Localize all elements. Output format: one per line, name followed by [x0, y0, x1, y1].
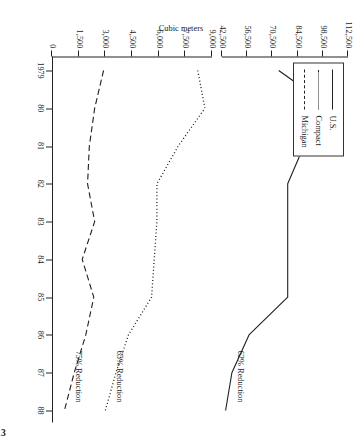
year-tick: [46, 146, 52, 147]
year-tick-label: 82: [36, 179, 45, 187]
annotation-us-reduction: 62% Reduction: [236, 350, 245, 402]
year-tick: [46, 259, 52, 260]
value-tick-lower: [184, 50, 185, 56]
year-axis-line: [52, 56, 53, 422]
value-axis-upper-segment: [222, 56, 348, 57]
value-axis-title: Cubic meters: [159, 24, 203, 33]
value-tick-label-lower: 1,500: [74, 29, 83, 48]
value-tick-label-upper: 112,500: [344, 21, 353, 48]
value-tick-upper: [322, 50, 323, 56]
value-tick-upper: [347, 50, 348, 56]
value-tick-lower: [104, 50, 105, 56]
year-tick: [46, 221, 52, 222]
year-tick-label: 84: [36, 255, 45, 263]
legend-label-compact: Compact: [314, 115, 323, 145]
year-tick-label: 81: [36, 141, 45, 149]
legend-item-us: U.S.: [327, 69, 338, 147]
year-tick: [46, 334, 52, 335]
value-tick-lower: [51, 50, 52, 56]
figure-caption-holder: FIGURE 10-13: [0, 426, 6, 437]
year-tick-label: 86: [36, 330, 45, 338]
year-tick: [46, 372, 52, 373]
value-tick-label-upper: 70,500: [268, 25, 277, 48]
annotation-michigan-reduction: 75% Reduction: [74, 350, 83, 402]
figure-rotated-stage: 112,50098,50084,50070,50056,50042,5009,0…: [0, 0, 362, 441]
value-tick-upper: [297, 50, 298, 56]
year-tick-label: 80: [36, 104, 45, 112]
value-tick-upper: [246, 50, 247, 56]
legend-item-compact: Compact: [313, 69, 324, 147]
value-tick-lower: [211, 50, 212, 56]
value-tick-label-lower: 3,000: [101, 29, 110, 48]
value-tick-label-lower: 0: [48, 44, 57, 48]
value-tick-label-upper: 98,500: [318, 25, 327, 48]
value-tick-label-lower: 4,500: [128, 29, 137, 48]
year-tick-label: 85: [36, 293, 45, 301]
legend-label-us: U.S.: [328, 115, 337, 130]
legend-key-dotted-icon: [318, 69, 319, 109]
legend-item-michigan: Michigan: [299, 69, 310, 147]
value-tick-lower: [78, 50, 79, 56]
year-tick-label: 87: [36, 368, 45, 376]
value-tick-label-lower: 9,000: [208, 29, 217, 48]
value-axis-lower-segment: [52, 56, 212, 57]
value-tick-lower: [131, 50, 132, 56]
legend-key-dashed-icon: [304, 69, 305, 109]
year-tick-label: 83: [36, 217, 45, 225]
value-tick-upper: [221, 50, 222, 56]
year-tick: [46, 183, 52, 184]
value-tick-label-upper: 42,500: [218, 25, 227, 48]
year-tick: [46, 108, 52, 109]
legend: U.S. Compact Michigan: [293, 62, 344, 156]
value-tick-label-upper: 84,500: [293, 25, 302, 48]
legend-key-solid-icon: [332, 69, 333, 109]
year-tick: [46, 297, 52, 298]
annotation-compact-reduction: 65% Reduction: [115, 350, 124, 402]
figure-caption: FIGURE 10-13: [0, 426, 6, 437]
year-tick: [46, 70, 52, 71]
year-tick-label: 1979: [36, 62, 45, 78]
value-tick-upper: [271, 50, 272, 56]
year-tick-label: 88: [36, 406, 45, 414]
figure-10-13: 112,50098,50084,50070,50056,50042,5009,0…: [0, 0, 362, 441]
value-tick-label-upper: 56,500: [243, 25, 252, 48]
year-tick: [46, 410, 52, 411]
value-tick-lower: [158, 50, 159, 56]
legend-label-michigan: Michigan: [300, 115, 309, 147]
series-line-michigan: [64, 70, 103, 410]
